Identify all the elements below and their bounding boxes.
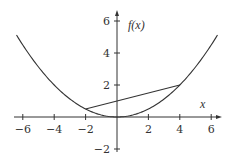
x-tick-label: 4	[176, 123, 183, 136]
y-ticks: 642−2	[94, 15, 120, 156]
y-axis-label: f(x)	[128, 18, 145, 32]
x-tick-label: −2	[77, 123, 93, 136]
x-tick-label: 6	[208, 123, 215, 136]
secant-line	[86, 85, 180, 109]
x-axis-label: x	[199, 97, 206, 111]
y-tick-label: 4	[103, 47, 110, 60]
y-tick-label: 6	[103, 15, 110, 28]
y-axis-arrow-icon	[115, 10, 119, 16]
x-tick-label: −6	[15, 123, 31, 136]
axes	[14, 14, 218, 152]
y-tick-label: 2	[103, 79, 110, 92]
x-tick-label: −4	[46, 123, 62, 136]
x-tick-label: 2	[145, 123, 152, 136]
x-axis-arrow-icon	[216, 115, 222, 119]
y-tick-label: −2	[94, 143, 110, 156]
function-plot: −6−4−2246 642−2 x f(x)	[0, 0, 229, 161]
